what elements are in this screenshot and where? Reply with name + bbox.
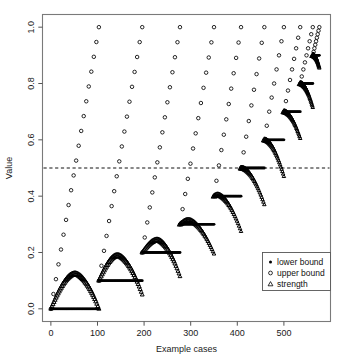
svg-text:0.2: 0.2: [26, 246, 36, 259]
chart-figure: 0100200300400500Example cases 0.00.20.40…: [0, 0, 344, 363]
svg-text:400: 400: [230, 328, 245, 338]
svg-text:0.0: 0.0: [26, 303, 36, 316]
svg-text:0: 0: [48, 328, 53, 338]
svg-text:100: 100: [90, 328, 105, 338]
svg-text:1.0: 1.0: [26, 21, 36, 34]
svg-text:Example cases: Example cases: [156, 344, 218, 354]
chart-canvas: 0100200300400500Example cases 0.00.20.40…: [0, 0, 344, 363]
svg-text:0.8: 0.8: [26, 77, 36, 90]
svg-text:Value: Value: [4, 157, 14, 179]
svg-text:lower bound: lower bound: [277, 257, 324, 267]
svg-text:0.4: 0.4: [26, 190, 36, 203]
svg-text:strength: strength: [277, 279, 308, 289]
svg-text:300: 300: [183, 328, 198, 338]
svg-text:upper bound: upper bound: [277, 268, 325, 278]
svg-text:500: 500: [276, 328, 291, 338]
svg-text:0.6: 0.6: [26, 134, 36, 147]
svg-text:200: 200: [137, 328, 152, 338]
chart-legend: lower boundupper boundstrength: [263, 253, 331, 291]
